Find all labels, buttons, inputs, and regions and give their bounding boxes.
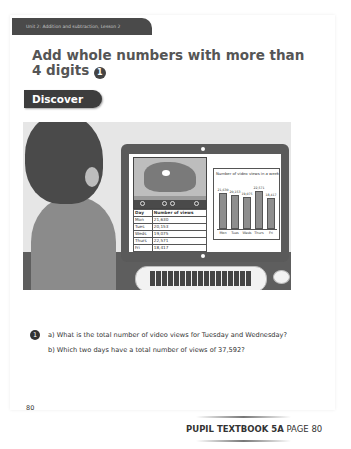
chart-bar-mon: 21,630: [219, 187, 227, 229]
question-b: b) Which two days have a total number of…: [48, 346, 245, 354]
views-bar-chart: Number of video views in a week 21,63020…: [213, 168, 280, 240]
discover-section-label: Discover: [24, 90, 102, 108]
table-row: Fri 18,417: [134, 245, 207, 252]
lesson-number-badge: 1: [94, 67, 106, 79]
bar-value-label: 19,075: [240, 192, 254, 196]
power-light-icon: [201, 254, 205, 258]
computer-monitor: Day Number of views Mon 21,630 Tues 20,1…: [121, 144, 289, 262]
play-icon: [162, 201, 167, 206]
table-header-row: Day Number of views: [134, 210, 207, 217]
title-text: Add whole numbers with more than 4 digit…: [32, 47, 304, 78]
chart-bar-weds: 19,075: [243, 191, 251, 229]
x-axis-label: Fri: [264, 231, 278, 235]
boy-hair: [25, 122, 103, 204]
chart-title: Number of video views in a week: [216, 171, 278, 176]
page-number: 80: [26, 404, 34, 412]
table-row: Tues 20,153: [134, 224, 207, 231]
footer-book-label: PUPIL TEXTBOOK 5A PAGE 80: [186, 424, 322, 434]
question-a: a) What is the total number of video vie…: [48, 331, 287, 339]
video-controls: [134, 200, 206, 208]
page-title: Add whole numbers with more than 4 digit…: [32, 48, 312, 79]
bar: [243, 197, 251, 229]
unit-banner: Unit 2: Addition and subtraction, Lesson…: [12, 18, 152, 35]
forward-icon: [194, 201, 199, 206]
monitor-screen: Day Number of views Mon 21,630 Tues 20,1…: [129, 154, 281, 252]
table-row: Mon 21,630: [134, 217, 207, 224]
illustration-boy-at-computer: Day Number of views Mon 21,630 Tues 20,1…: [23, 122, 291, 290]
keyboard: [135, 266, 267, 290]
chart-bar-thurs: 22,571: [255, 185, 263, 229]
rewind-icon: [140, 201, 145, 206]
bar: [267, 198, 275, 229]
boy-ear: [85, 167, 99, 187]
views-table: Day Number of views Mon 21,630 Tues 20,1…: [133, 209, 207, 252]
boy-hoodie: [31, 197, 116, 290]
cartoon-dog-image: [144, 162, 196, 192]
dog-eye: [162, 170, 170, 176]
video-player: [133, 157, 207, 209]
bar-value-label: 22,571: [252, 186, 266, 190]
book-title: PUPIL TEXTBOOK 5A: [186, 424, 284, 434]
chart-bar-fri: 18,417: [267, 192, 275, 229]
table-row: Thurs 22,571: [134, 238, 207, 245]
question-number-badge: 1: [30, 330, 40, 340]
footer-divider-top: [196, 416, 291, 418]
webcam-icon: [201, 147, 205, 151]
bar-value-label: 18,417: [264, 193, 278, 197]
bar: [219, 193, 227, 229]
book-page: PAGE 80: [287, 424, 323, 434]
table-row: Weds 19,075: [134, 231, 207, 238]
bar: [231, 195, 239, 229]
keyboard-keys: [150, 271, 252, 286]
chart-bar-tues: 20,153: [231, 189, 239, 229]
footer-divider-bottom: [196, 440, 291, 442]
computer-mouse: [273, 270, 290, 284]
chart-bars: 21,63020,15319,07522,57118,417: [217, 179, 277, 230]
pause-icon: [170, 201, 175, 206]
bar: [255, 191, 263, 229]
